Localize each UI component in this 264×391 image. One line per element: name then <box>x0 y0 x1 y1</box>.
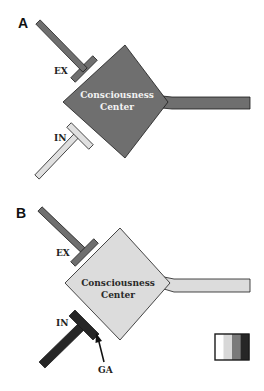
legend-swatch-1 <box>215 334 224 360</box>
legend-swatch-2 <box>224 334 233 360</box>
output-axon-a <box>162 96 250 109</box>
legend-swatch-3 <box>232 334 241 360</box>
center-label-line2-a: Center <box>100 102 134 112</box>
grayscale-legend <box>215 334 249 360</box>
ga-annotation: GA <box>96 333 114 375</box>
consciousness-diagram: A EX IN Consciousness Center B EX IN <box>0 0 264 391</box>
inhibitory-input-b <box>39 310 99 368</box>
legend-swatch-4 <box>241 334 250 360</box>
excitatory-input-a <box>0 0 97 82</box>
excitatory-stem-shape-a <box>36 20 87 72</box>
output-axon-b <box>164 277 250 292</box>
center-label-line1-b: Consciousness <box>81 278 155 288</box>
panel-a: A EX IN Consciousness Center <box>0 0 250 179</box>
center-label-line1-a: Consciousness <box>80 90 154 100</box>
in-label-b: IN <box>56 318 68 328</box>
center-label-line2-b: Center <box>101 290 135 300</box>
in-label-a: IN <box>54 133 66 143</box>
ex-label-b: EX <box>56 248 70 258</box>
ga-label: GA <box>98 365 114 375</box>
panel-label-b: B <box>16 205 26 221</box>
ex-label-a: EX <box>54 66 68 76</box>
inhibitory-stem-b <box>39 322 86 368</box>
inhibitory-input-a <box>35 123 93 179</box>
panel-label-a: A <box>18 15 28 31</box>
